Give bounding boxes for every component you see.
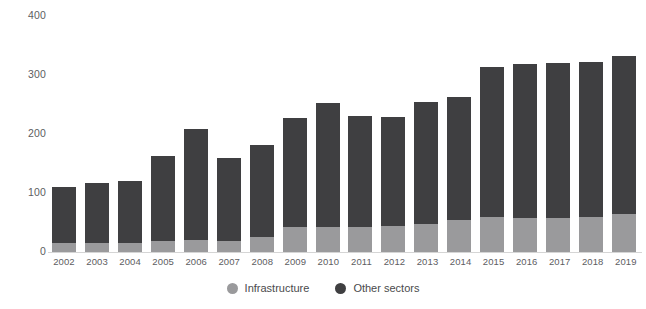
bar-segment-other-sectors[interactable]: [612, 56, 636, 214]
legend-item-label: Infrastructure: [245, 282, 310, 294]
bar-segment-other-sectors[interactable]: [348, 116, 372, 228]
bar-segment-other-sectors[interactable]: [283, 118, 307, 227]
y-axis-tick-label: 200: [0, 128, 46, 139]
bar-column[interactable]: [118, 16, 142, 252]
bar-column[interactable]: [513, 16, 537, 252]
bar-segment-other-sectors[interactable]: [118, 181, 142, 242]
bar-segment-other-sectors[interactable]: [480, 67, 504, 217]
x-axis-tick-label: 2014: [449, 256, 473, 267]
x-axis-tick-label: 2019: [614, 256, 638, 267]
x-axis-tick-label: 2009: [283, 256, 307, 267]
bar-column[interactable]: [348, 16, 372, 252]
bar-segment-infrastructure[interactable]: [348, 227, 372, 252]
bar-segment-other-sectors[interactable]: [151, 156, 175, 240]
bar-segment-infrastructure[interactable]: [316, 227, 340, 252]
plot-area: [48, 16, 640, 252]
x-axis-tick-label: 2018: [581, 256, 605, 267]
bar-segment-infrastructure[interactable]: [250, 237, 274, 252]
bar-segment-infrastructure[interactable]: [546, 218, 570, 252]
circle-marker-icon: [227, 283, 238, 294]
bar-segment-other-sectors[interactable]: [579, 62, 603, 217]
bar-segment-other-sectors[interactable]: [414, 102, 438, 224]
bar-segment-infrastructure[interactable]: [513, 218, 537, 252]
x-axis-tick-label: 2004: [118, 256, 142, 267]
bar-segment-other-sectors[interactable]: [250, 145, 274, 237]
y-axis-tick-label: 400: [0, 10, 46, 21]
bar-segment-infrastructure[interactable]: [414, 224, 438, 252]
bar-segment-other-sectors[interactable]: [546, 63, 570, 218]
bar-segment-other-sectors[interactable]: [217, 158, 241, 241]
bar-column[interactable]: [316, 16, 340, 252]
bar-column[interactable]: [546, 16, 570, 252]
bar-segment-infrastructure[interactable]: [447, 220, 471, 252]
bar-column[interactable]: [480, 16, 504, 252]
x-axis-tick-label: 2005: [151, 256, 175, 267]
bar-segment-infrastructure[interactable]: [118, 243, 142, 252]
bar-segment-other-sectors[interactable]: [85, 183, 109, 243]
y-axis-tick-label: 300: [0, 69, 46, 80]
x-axis-tick-label: 2003: [85, 256, 109, 267]
x-axis-tick-label: 2007: [217, 256, 241, 267]
bar-segment-infrastructure[interactable]: [52, 243, 76, 252]
bar-segment-other-sectors[interactable]: [184, 129, 208, 239]
bar-column[interactable]: [414, 16, 438, 252]
bar-segment-other-sectors[interactable]: [447, 97, 471, 220]
bar-group: [48, 16, 640, 252]
x-axis-tick-label: 2016: [515, 256, 539, 267]
bar-segment-other-sectors[interactable]: [513, 64, 537, 218]
bar-column[interactable]: [283, 16, 307, 252]
bar-segment-infrastructure[interactable]: [381, 226, 405, 252]
bar-segment-other-sectors[interactable]: [316, 103, 340, 227]
bar-segment-other-sectors[interactable]: [52, 187, 76, 242]
x-axis-tick-label: 2010: [316, 256, 340, 267]
bar-column[interactable]: [250, 16, 274, 252]
bar-column[interactable]: [217, 16, 241, 252]
bar-column[interactable]: [151, 16, 175, 252]
x-axis-tick-label: 2011: [349, 256, 373, 267]
x-axis-tick-label: 2008: [250, 256, 274, 267]
chart-legend: InfrastructureOther sectors: [0, 282, 646, 294]
x-axis-tick-label: 2006: [184, 256, 208, 267]
bar-column[interactable]: [52, 16, 76, 252]
legend-item[interactable]: Infrastructure: [227, 282, 310, 294]
bar-segment-infrastructure[interactable]: [151, 241, 175, 252]
bar-segment-infrastructure[interactable]: [217, 241, 241, 252]
x-axis-tick-label: 2002: [52, 256, 76, 267]
bar-segment-infrastructure[interactable]: [612, 214, 636, 252]
x-axis: 2002200320042005200620072008200920102011…: [48, 256, 642, 267]
bar-segment-infrastructure[interactable]: [184, 240, 208, 252]
x-axis-tick-label: 2012: [382, 256, 406, 267]
y-axis-tick-label: 100: [0, 187, 46, 198]
bar-segment-infrastructure[interactable]: [579, 217, 603, 252]
x-axis-baseline: [48, 252, 642, 253]
legend-item-label: Other sectors: [353, 282, 419, 294]
x-axis-tick-label: 2013: [416, 256, 440, 267]
x-axis-tick-label: 2017: [548, 256, 572, 267]
bar-segment-other-sectors[interactable]: [381, 117, 405, 226]
bar-column[interactable]: [447, 16, 471, 252]
bar-segment-infrastructure[interactable]: [85, 243, 109, 252]
bar-column[interactable]: [85, 16, 109, 252]
bar-column[interactable]: [184, 16, 208, 252]
bar-column[interactable]: [612, 16, 636, 252]
stacked-bar-chart: 4003002001000 20022003200420052006200720…: [0, 0, 646, 309]
legend-item[interactable]: Other sectors: [335, 282, 419, 294]
circle-marker-icon: [335, 283, 346, 294]
y-axis-tick-label: 0: [0, 246, 46, 257]
bar-segment-infrastructure[interactable]: [480, 217, 504, 252]
bar-column[interactable]: [579, 16, 603, 252]
y-axis: 4003002001000: [0, 0, 46, 270]
bar-column[interactable]: [381, 16, 405, 252]
x-axis-tick-label: 2015: [482, 256, 506, 267]
bar-segment-infrastructure[interactable]: [283, 227, 307, 252]
